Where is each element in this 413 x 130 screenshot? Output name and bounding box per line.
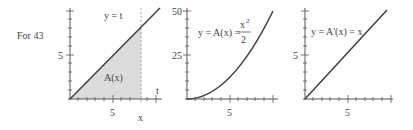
chart-panel-3: y = A'(x) = x 5 5 [293,8,393,118]
y-tick-label-50: 50 [172,6,182,17]
curve-label-denominator: 2 [241,34,246,45]
y-tick-label-25: 25 [172,50,182,61]
x-tick-label: 5 [227,107,232,118]
curve-label-exponent: 2 [246,17,250,25]
area-label: A(x) [104,72,123,84]
curve-y-equals-x [305,10,387,99]
curve-x-squared-over-2 [187,11,273,99]
x-tick-label: 5 [345,107,350,118]
y-tick-label: 5 [293,50,298,61]
chart-panel-1: y = t A(x) t x 5 5 [58,8,162,123]
x-tick-label: 5 [110,107,115,118]
curve-label: y = t [104,10,123,21]
chart-panel-2: 50 25 5 y = A(x) = x 2 2 [172,6,278,118]
x-axis-label: t [156,85,159,96]
x-marker-label: x [138,112,143,123]
curve-label-numerator: x [240,19,245,30]
curve-label: y = A'(x) = x [311,26,362,38]
y-tick-label: 5 [58,50,63,61]
curve-label-left: y = A(x) = [198,27,240,39]
